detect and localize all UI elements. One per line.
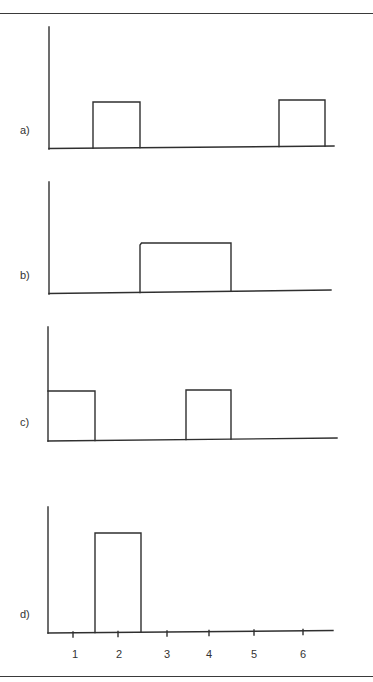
panel-c-x-axis	[48, 438, 337, 441]
x-tick-label-3: 3	[164, 648, 170, 660]
x-tick-label-1: 1	[72, 648, 78, 660]
panel-c-bar-1	[48, 391, 95, 441]
x-tick-label-6: 6	[300, 648, 306, 660]
figure-canvas	[0, 0, 373, 682]
panel-d-bar-1	[95, 533, 141, 633]
panel-c-plot	[48, 327, 337, 441]
panel-d-x-axis	[48, 631, 333, 634]
panel-a-x-axis	[49, 146, 334, 149]
panel-c-label: c)	[20, 416, 29, 428]
panel-a-plot	[49, 27, 334, 149]
x-tick-label-2: 2	[116, 648, 122, 660]
panel-a-bar-2	[279, 100, 325, 147]
panel-d-plot	[48, 507, 333, 637]
x-tick-label-5: 5	[251, 648, 257, 660]
panel-a-bar-1	[93, 102, 140, 148]
panel-c-bar-2	[186, 390, 231, 440]
panel-b-plot	[49, 182, 331, 294]
panel-a-label: a)	[20, 124, 30, 136]
x-tick-label-4: 4	[206, 648, 212, 660]
panel-b-x-axis	[49, 290, 331, 294]
panel-b-label: b)	[20, 269, 30, 281]
panel-b-bar-1	[140, 243, 231, 293]
panel-d-label: d)	[20, 608, 30, 620]
